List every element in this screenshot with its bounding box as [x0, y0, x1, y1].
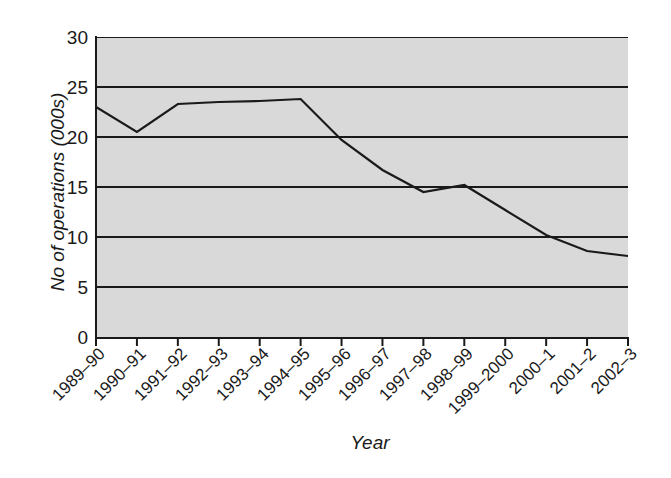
x-axis-title: Year: [270, 432, 470, 454]
x-axis-tick-labels: 1989–901990–911991–921992–931993–941994–…: [0, 0, 671, 478]
line-chart-figure: 051015202530 No of operations (000s) 198…: [0, 0, 671, 478]
